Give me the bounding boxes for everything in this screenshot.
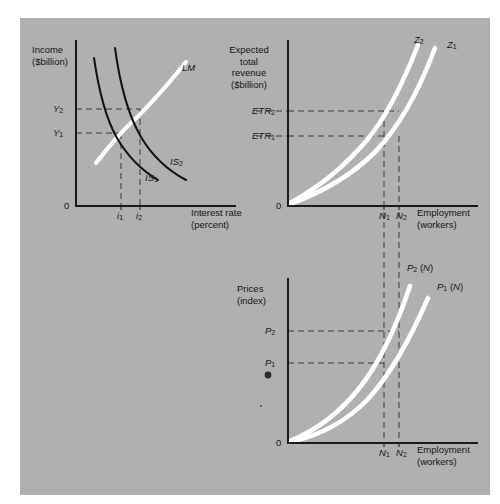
prices-origin-label: 0 xyxy=(276,437,281,449)
etr-xtick-n1: N1 xyxy=(379,210,390,224)
etr-ytick-etr1: ETR1 xyxy=(252,130,275,144)
prices-ytick-p2: P2 xyxy=(265,325,275,339)
curve-label-p2n: P2 (N) xyxy=(407,262,433,276)
panel-prices xyxy=(260,278,478,447)
curve-label-is1: IS1 xyxy=(145,172,158,186)
etr-origin-label: 0 xyxy=(276,200,281,212)
curve-label-is2: IS2 xyxy=(170,156,183,170)
etr-ytick-etr2: ETR2 xyxy=(252,105,275,119)
etr-axes xyxy=(288,40,478,206)
prices-xtick-n2: N2 xyxy=(396,447,407,461)
curve-p1n xyxy=(290,298,428,442)
islm-ytick-y2: Y2 xyxy=(53,103,63,117)
islm-ytick-y1: Y1 xyxy=(53,127,63,141)
islm-y-axis-label: Income ($billion) xyxy=(32,44,68,67)
panel-etr xyxy=(256,40,478,210)
curve-z1 xyxy=(290,48,435,204)
ink-dot-artifact xyxy=(260,405,262,407)
curve-label-lm: LM xyxy=(182,62,195,74)
etr-x-axis-label: Employment (workers) xyxy=(417,207,470,230)
prices-guides xyxy=(288,331,399,363)
islm-xtick-i2: i2 xyxy=(136,210,142,224)
curve-label-p1n: P1 (N) xyxy=(437,281,463,295)
curve-label-z1: Z1 xyxy=(447,39,457,53)
panel-connectors xyxy=(384,212,399,443)
curve-label-z2: Z2 xyxy=(414,34,424,48)
prices-ytick-p1: P1 xyxy=(265,357,275,371)
prices-xtick-n1: N1 xyxy=(379,447,390,461)
prices-x-axis-label: Employment (workers) xyxy=(417,444,470,467)
prices-axes xyxy=(288,278,478,443)
islm-xtick-i1: i1 xyxy=(117,210,123,224)
curve-lm xyxy=(96,62,186,163)
prices-y-axis-label: Prices (index) xyxy=(237,283,266,306)
islm-origin-label: 0 xyxy=(64,200,69,212)
etr-xtick-n2: N2 xyxy=(396,210,407,224)
figure-root: Income ($billion) 0 Y2 Y1 i1 i2 Interest… xyxy=(0,0,500,504)
islm-x-axis-label: Interest rate (percent) xyxy=(191,207,242,230)
curve-is1 xyxy=(94,58,158,180)
etr-y-axis-label: Expected total revenue ($billion) xyxy=(215,44,283,90)
ink-speck-artifact xyxy=(265,372,272,379)
